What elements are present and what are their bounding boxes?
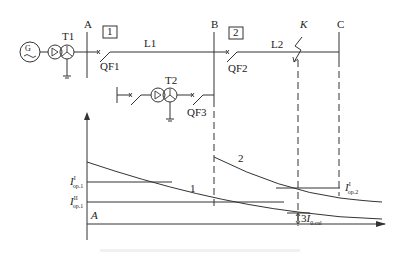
qf3-label: QF3 xyxy=(187,106,207,118)
fault-k-icon xyxy=(293,37,302,62)
t2-label: T2 xyxy=(165,74,177,86)
protection-1-label: 1 xyxy=(107,25,113,37)
bus-b-label: B xyxy=(211,18,218,30)
transformer-t1-icon xyxy=(48,45,74,78)
qf2-label: QF2 xyxy=(228,62,248,74)
l1-label: L1 xyxy=(144,37,156,49)
generator-icon: G xyxy=(20,42,40,62)
label-op1-II: IIIop.1 xyxy=(69,195,83,209)
transformer-t2-icon xyxy=(151,88,177,121)
t1-label: T1 xyxy=(62,30,74,42)
curve-1 xyxy=(87,162,382,219)
qf1-label: QF1 xyxy=(100,60,120,72)
protection-2-label: 2 xyxy=(233,26,239,38)
breaker-qf2-icon xyxy=(226,50,237,62)
curve-1-label: 1 xyxy=(190,182,196,194)
region-a-label: A xyxy=(90,209,98,221)
figure-caption-illegible xyxy=(100,249,300,252)
protection-diagram: G T1 A QF1 1 L1 B QF2 2 L2 xyxy=(0,0,401,258)
label-op2-I: IIop.2 xyxy=(344,181,358,195)
bus-c-label: C xyxy=(337,18,344,30)
fault-k-label: K xyxy=(299,18,308,30)
label-op1-I: IIop.1 xyxy=(69,175,83,189)
double-arrow-icon xyxy=(296,213,300,224)
svg-text:G: G xyxy=(25,44,31,53)
bus-a-label: A xyxy=(84,18,92,30)
y-axis-arrow-icon xyxy=(84,112,90,120)
l2-label: L2 xyxy=(271,38,283,50)
x-axis-arrow-icon xyxy=(376,221,386,227)
curve-2-label: 2 xyxy=(238,152,244,164)
